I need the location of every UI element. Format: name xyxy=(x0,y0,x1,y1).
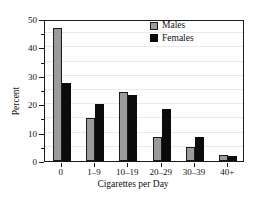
gridline xyxy=(45,46,243,47)
gridline xyxy=(45,103,243,104)
gridline xyxy=(45,132,243,133)
legend-swatch-icon xyxy=(150,34,158,42)
bar-females-2 xyxy=(128,95,137,161)
bar-females-5 xyxy=(228,156,237,161)
y-axis-tick-label: 30 xyxy=(28,72,37,81)
legend-item-males: Males xyxy=(150,21,236,31)
bar-males-1 xyxy=(86,118,95,161)
y-axis-tick-label: 0 xyxy=(33,158,38,167)
bar-males-0 xyxy=(53,28,62,161)
x-axis-tick-label: 10–19 xyxy=(116,167,139,177)
bar-males-3 xyxy=(153,137,162,161)
y-axis-tick-label: 40 xyxy=(28,44,37,53)
gridline xyxy=(45,146,243,147)
y-axis-tick-label: 10 xyxy=(28,129,37,138)
x-axis-tick-label: 20–29 xyxy=(149,167,172,177)
legend: MalesFemales xyxy=(150,21,236,46)
legend-label: Males xyxy=(162,21,185,31)
y-axis-tick-label: 50 xyxy=(28,16,37,25)
x-axis-tick-label: 1–9 xyxy=(87,167,101,177)
bar-females-3 xyxy=(162,109,171,161)
gridline xyxy=(45,75,243,76)
x-axis: 01–910–1920–2930–3940+ xyxy=(44,163,244,177)
x-axis-title: Cigarettes per Day xyxy=(0,179,266,189)
bar-females-1 xyxy=(95,104,104,161)
gridline xyxy=(45,89,243,90)
x-axis-tick-label: 40+ xyxy=(220,167,234,177)
bar-males-4 xyxy=(186,147,195,161)
x-axis-tick-label: 0 xyxy=(58,167,63,177)
legend-label: Females xyxy=(162,34,194,44)
gridline xyxy=(45,61,243,62)
bar-females-0 xyxy=(62,83,71,161)
y-axis-tick-label: 20 xyxy=(28,101,37,110)
bar-females-4 xyxy=(195,137,204,161)
legend-swatch-icon xyxy=(150,22,158,30)
x-axis-tick-label: 30–39 xyxy=(183,167,206,177)
bar-males-2 xyxy=(119,92,128,161)
bar-males-5 xyxy=(219,155,228,161)
gridline xyxy=(45,117,243,118)
legend-item-females: Females xyxy=(150,34,236,44)
bar-chart-figure: Percent 01020304050 01–910–1920–2930–394… xyxy=(0,0,266,201)
y-axis: 01020304050 xyxy=(0,20,44,162)
